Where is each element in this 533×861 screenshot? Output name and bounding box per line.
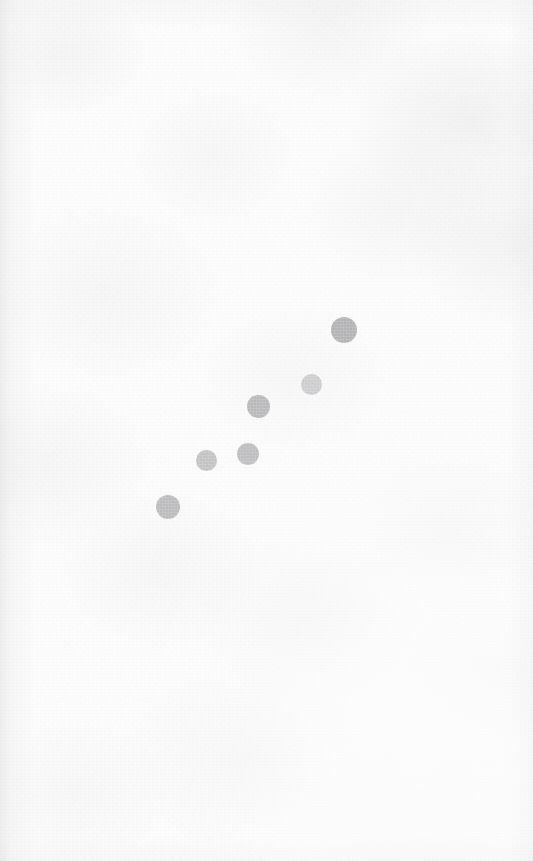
scatter-point <box>301 374 322 395</box>
scatter-point <box>237 443 259 465</box>
scatter-point <box>196 450 217 471</box>
scatter-point <box>156 495 180 519</box>
scatter-point <box>331 317 357 343</box>
scatter-plot-canvas <box>0 0 533 861</box>
scatter-point <box>247 395 270 418</box>
scatter-point-layer <box>0 0 533 861</box>
